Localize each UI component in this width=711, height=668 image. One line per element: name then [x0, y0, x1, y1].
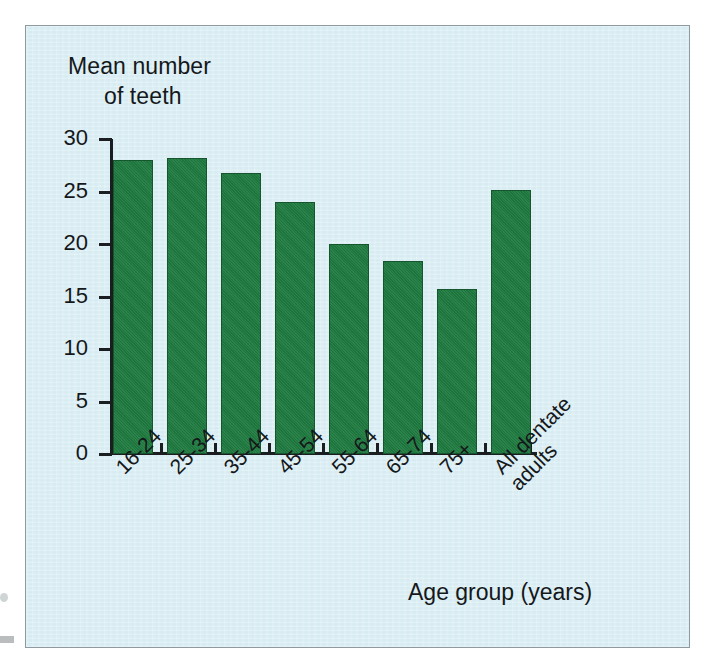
y-tick-label: 0 [42, 442, 88, 464]
y-tick-label: 20 [42, 232, 88, 254]
y-tick [99, 401, 112, 404]
y-tick [99, 453, 112, 456]
y-tick [99, 138, 112, 141]
x-axis-title: Age group (years) [408, 579, 592, 605]
y-tick-label: 30 [42, 127, 88, 149]
bar [221, 173, 261, 454]
y-tick-label: 15 [42, 285, 88, 307]
bar [167, 158, 207, 454]
bar [329, 244, 369, 454]
y-tick-label: 25 [42, 180, 88, 202]
figure-panel: Mean number of teeth 051015202530 16-242… [25, 25, 690, 648]
x-tick [484, 443, 487, 455]
y-tick-label: 5 [42, 390, 88, 412]
scan-artifact-dot [0, 593, 8, 602]
bar [113, 160, 153, 454]
y-tick [99, 348, 112, 351]
y-tick-label: 10 [42, 337, 88, 359]
bar [275, 202, 315, 454]
y-tick [99, 191, 112, 194]
y-tick [99, 243, 112, 246]
bar [437, 289, 477, 454]
y-tick [99, 296, 112, 299]
scan-artifact-mark [0, 636, 14, 643]
plot-area: 051015202530 16-2425-3435-4445-5455-6465… [26, 26, 691, 649]
bar [491, 190, 531, 454]
